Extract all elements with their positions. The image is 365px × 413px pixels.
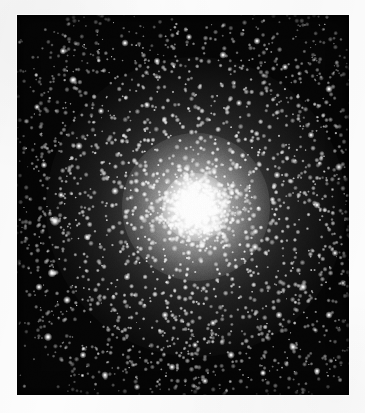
cluster-core-glow: [162, 173, 230, 241]
globular-cluster-photograph: [17, 15, 349, 395]
bright-field-stars: [17, 15, 349, 395]
cluster-outer-glow: [46, 57, 346, 357]
frame-vignette: [17, 15, 349, 395]
cluster-mid-glow: [122, 133, 270, 281]
halftone-grain-overlay: [17, 15, 349, 395]
cluster-core-starfield: [17, 15, 349, 395]
resolved-halo-starfield: [17, 15, 349, 395]
plate-page: [0, 0, 365, 413]
